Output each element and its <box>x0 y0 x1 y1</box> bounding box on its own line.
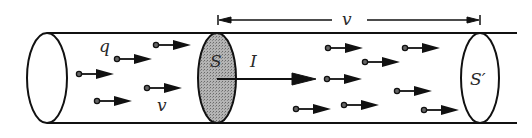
velocity-arrow-icon <box>134 54 152 64</box>
diagram-canvas: q v S I S′ v <box>0 0 532 138</box>
charge-particles <box>76 40 459 115</box>
velocity-arrow-icon <box>361 100 379 110</box>
velocity-arrow-icon <box>114 96 132 106</box>
charge-particle <box>114 54 152 64</box>
charge-particle <box>94 96 132 106</box>
velocity-arrow-icon <box>313 104 331 114</box>
velocity-arrow-icon <box>414 86 432 96</box>
charge-particle <box>362 57 400 67</box>
charge-particle <box>325 43 363 53</box>
charge-particle <box>341 100 379 110</box>
charge-particle <box>293 104 331 114</box>
charge-particle <box>153 40 191 50</box>
charge-particle <box>144 83 182 93</box>
label-velocity-v: v <box>157 95 167 115</box>
label-section-s: S <box>210 51 222 71</box>
velocity-arrow-icon <box>441 105 459 115</box>
label-section-s-prime: S′ <box>470 69 486 89</box>
velocity-arrow-icon <box>382 57 400 67</box>
label-charge-q: q <box>99 36 110 56</box>
charge-particle <box>402 43 440 53</box>
charge-particle <box>394 86 432 96</box>
charge-particle <box>76 69 114 79</box>
charge-particle <box>324 74 362 84</box>
velocity-arrow-icon <box>345 43 363 53</box>
label-dimension-v: v <box>342 9 352 29</box>
velocity-arrow-icon <box>96 69 114 79</box>
conductor-diagram: q v S I S′ v <box>0 0 532 138</box>
label-current-i: I <box>249 51 257 71</box>
charge-particle <box>421 105 459 115</box>
velocity-arrow-icon <box>164 83 182 93</box>
velocity-arrow-icon <box>422 43 440 53</box>
velocity-arrow-icon <box>344 74 362 84</box>
tube-left-end <box>27 33 67 123</box>
velocity-arrow-icon <box>173 40 191 50</box>
